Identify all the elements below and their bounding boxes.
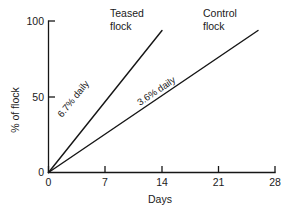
rate-annotation-teased-flock: 6.7% daily: [55, 78, 91, 119]
x-tick-label-28: 28: [269, 176, 281, 188]
y-tick-label-0: 0: [38, 166, 44, 178]
x-axis-title: Days: [148, 193, 172, 205]
series-label-control-flock-line2: flock: [203, 20, 225, 32]
series-label-teased-flock-line1: Teased: [110, 7, 144, 19]
line-chart: 100 50 0 0 7 14 21 28 % of flock Days Te…: [0, 0, 284, 211]
rate-annotation-control-flock: 3.6% daily: [135, 74, 178, 108]
chart-figure: 100 50 0 0 7 14 21 28 % of flock Days Te…: [0, 0, 284, 211]
y-axis-title: % of flock: [9, 86, 21, 132]
y-tick-label-50: 50: [32, 91, 44, 103]
series-line-control-flock: [49, 31, 259, 173]
series-label-control-flock-line1: Control: [203, 7, 237, 19]
x-tick-label-21: 21: [213, 176, 225, 188]
x-tick-label-0: 0: [46, 176, 52, 188]
x-tick-label-14: 14: [156, 176, 168, 188]
y-tick-label-100: 100: [26, 15, 44, 27]
series-label-teased-flock-line2: flock: [110, 20, 132, 32]
x-tick-label-7: 7: [102, 176, 108, 188]
